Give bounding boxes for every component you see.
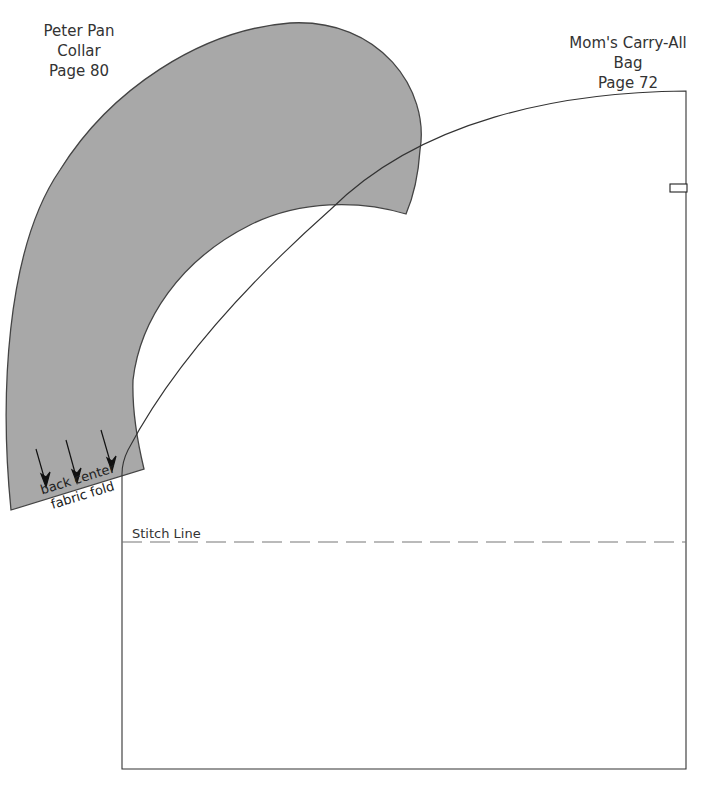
collar-title: Peter Pan Collar Page 80: [20, 21, 138, 81]
collar-piece: [6, 23, 421, 510]
stitch-line-label: Stitch Line: [132, 526, 201, 541]
collar-page-ref: Page 80: [20, 61, 138, 81]
pattern-canvas: [0, 0, 702, 785]
collar-title-line: Collar: [20, 41, 138, 61]
notch-marker: [670, 184, 687, 192]
bag-title-line: Bag: [548, 53, 702, 73]
bag-title-line: Mom's Carry-All: [548, 33, 702, 53]
bag-page-ref: Page 72: [548, 73, 702, 93]
collar-title-line: Peter Pan: [20, 21, 138, 41]
bag-title: Mom's Carry-All Bag Page 72: [548, 33, 702, 93]
